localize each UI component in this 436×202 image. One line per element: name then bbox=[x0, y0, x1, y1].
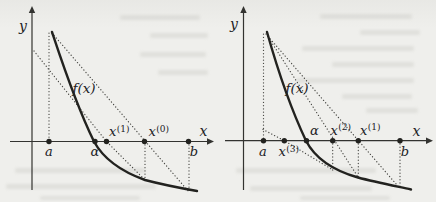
point-dot-x1 bbox=[104, 139, 109, 144]
function-curve bbox=[52, 32, 197, 191]
x-axis-label: x bbox=[413, 123, 421, 139]
point-label-a: a bbox=[45, 144, 53, 159]
x-axis-arrow bbox=[207, 138, 214, 144]
y-axis-label: y bbox=[18, 18, 28, 34]
y-axis-label: y bbox=[229, 16, 239, 32]
point-label-a: a bbox=[259, 144, 267, 159]
function-label: f(x) bbox=[71, 80, 95, 96]
scanned-figure-page: xyf(x)aαx(1)x(0)bxyf(x)ax(3)αx(2)x(1)b bbox=[0, 0, 436, 202]
panel-left: xyf(x)aαx(1)x(0)b bbox=[10, 6, 214, 192]
panel-right: xyf(x)ax(3)αx(2)x(1)b bbox=[225, 6, 433, 190]
figure-svg: xyf(x)aαx(1)x(0)bxyf(x)ax(3)αx(2)x(1)b bbox=[0, 0, 436, 202]
y-axis-arrow bbox=[240, 6, 246, 13]
x-axis-label: x bbox=[200, 123, 208, 139]
x-axis-arrow bbox=[426, 138, 433, 144]
point-label-x3: x(3) bbox=[279, 144, 300, 160]
point-dot-x1 bbox=[356, 138, 361, 143]
point-label-alpha: α bbox=[310, 123, 319, 138]
point-label-b: b bbox=[190, 144, 198, 159]
dotted-chord-through-x0 bbox=[34, 51, 145, 180]
point-label-x0: x(0) bbox=[149, 124, 170, 140]
point-label-x2: x(2) bbox=[331, 122, 352, 138]
point-label-alpha: α bbox=[91, 144, 100, 159]
function-curve bbox=[267, 32, 411, 190]
dotted-secant-1 bbox=[266, 34, 400, 189]
point-label-b: b bbox=[401, 144, 409, 159]
point-label-x1: x(1) bbox=[360, 122, 381, 138]
point-dot-x0 bbox=[142, 139, 147, 144]
y-axis-arrow bbox=[29, 6, 35, 13]
point-dot-x2 bbox=[330, 138, 335, 143]
point-label-x1: x(1) bbox=[109, 124, 130, 140]
point-dot-alpha bbox=[304, 138, 309, 143]
function-label: f(x) bbox=[284, 80, 308, 96]
